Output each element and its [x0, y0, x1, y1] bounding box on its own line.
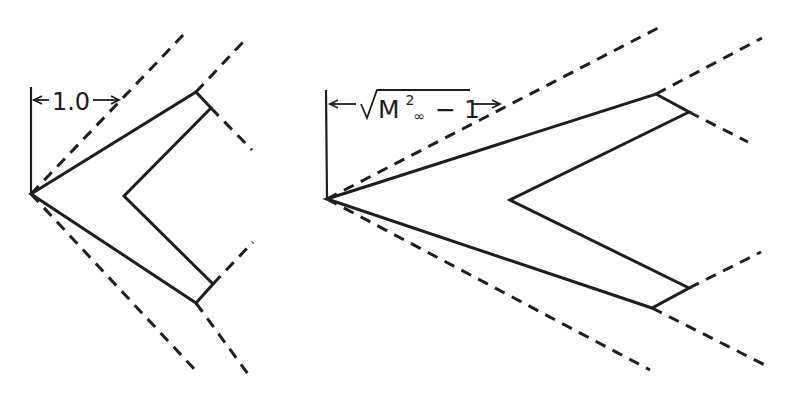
- left-wing-planform: [31, 92, 213, 303]
- mach-line: [327, 28, 658, 199]
- left-dimension-arrow: 1.0: [33, 88, 119, 116]
- mach-line: [196, 40, 245, 92]
- mach-line: [652, 308, 765, 365]
- mach-line: [31, 194, 197, 372]
- right-reference-line: [326, 90, 327, 199]
- left-dimension-label: 1.0: [52, 88, 90, 116]
- mach-line: [327, 199, 650, 370]
- left-wing-figure: 1.0: [31, 33, 253, 374]
- right-dimension-label: M 2 ∞ − 1: [378, 82, 480, 127]
- mach-line: [689, 112, 748, 142]
- mach-line: [211, 108, 252, 150]
- left-mach-lines: [31, 33, 253, 374]
- right-wing-planform: [327, 94, 689, 308]
- mach-line: [689, 252, 761, 288]
- mach-line: [196, 303, 248, 374]
- mach-line: [656, 38, 762, 94]
- swept-wing-mach-line-diagram: 1.0 M 2 ∞ − 1: [0, 0, 789, 397]
- right-dimension-arrow: M 2 ∞ − 1: [329, 82, 500, 127]
- right-wing-figure: M 2 ∞ − 1: [326, 28, 765, 370]
- right-mach-lines: [327, 28, 765, 370]
- mach-line: [213, 242, 253, 284]
